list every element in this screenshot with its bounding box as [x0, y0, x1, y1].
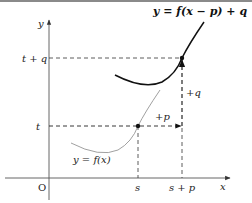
- curve-shifted: [115, 22, 204, 85]
- y-tick-t-plus-q: t + q: [22, 53, 47, 64]
- x-tick-s-plus-p: s + p: [169, 182, 196, 193]
- y-axis-label: y: [37, 18, 44, 29]
- shift-label-q: +q: [186, 87, 201, 98]
- x-tick-s: s: [135, 182, 140, 193]
- y-tick-t: t: [36, 121, 41, 132]
- translation-diagram: y = f(x − p) + q y = f(x) y x O t + q t …: [0, 0, 252, 203]
- x-axis-label: x: [220, 181, 226, 192]
- curve-original: [71, 90, 160, 153]
- point-sp-tq: [180, 56, 184, 60]
- original-curve-label: y = f(x): [72, 154, 111, 165]
- point-s-t: [136, 124, 140, 128]
- shift-label-p: +p: [155, 111, 170, 122]
- shifted-curve-label: y = f(x − p) + q: [152, 5, 247, 18]
- origin-label: O: [38, 182, 46, 193]
